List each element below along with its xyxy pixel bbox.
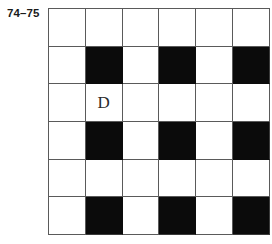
grid-cell[interactable] <box>159 122 196 160</box>
grid-cell[interactable] <box>196 47 233 85</box>
figure-number-label: 74–75 <box>7 7 39 20</box>
grid-cell-letter: D <box>98 94 110 111</box>
grid-cell[interactable] <box>49 84 86 122</box>
grid-cell[interactable] <box>123 47 160 85</box>
grid-cell[interactable] <box>159 84 196 122</box>
puzzle-grid: D <box>48 8 270 235</box>
grid-cell[interactable] <box>49 197 86 235</box>
grid-cell[interactable] <box>49 47 86 85</box>
grid-cell[interactable] <box>233 122 270 160</box>
grid-cell[interactable] <box>196 197 233 235</box>
grid-cell[interactable] <box>123 84 160 122</box>
grid-cell[interactable] <box>233 9 270 47</box>
grid-cell[interactable] <box>86 122 123 160</box>
grid-cell[interactable] <box>86 197 123 235</box>
grid-cell[interactable] <box>196 84 233 122</box>
grid-cell[interactable] <box>49 9 86 47</box>
grid-cell[interactable] <box>49 122 86 160</box>
grid-cell[interactable] <box>123 9 160 47</box>
grid-cell[interactable] <box>233 197 270 235</box>
grid-cell[interactable] <box>233 84 270 122</box>
grid-cell[interactable] <box>49 160 86 198</box>
puzzle-figure: 74–75 D <box>0 0 272 244</box>
grid-cell[interactable] <box>123 160 160 198</box>
grid-cell[interactable] <box>159 47 196 85</box>
grid-cell[interactable] <box>233 160 270 198</box>
grid-cell[interactable] <box>123 197 160 235</box>
grid-cell[interactable] <box>196 160 233 198</box>
grid-cell[interactable] <box>196 122 233 160</box>
grid-cell[interactable] <box>196 9 233 47</box>
grid-cell[interactable] <box>159 9 196 47</box>
grid-cell[interactable] <box>86 47 123 85</box>
grid-cell[interactable] <box>86 9 123 47</box>
grid-cell[interactable] <box>159 160 196 198</box>
grid-cell[interactable] <box>86 160 123 198</box>
grid-cell[interactable] <box>233 47 270 85</box>
grid-cell[interactable] <box>159 197 196 235</box>
grid-cell[interactable]: D <box>86 84 123 122</box>
grid-cell[interactable] <box>123 122 160 160</box>
